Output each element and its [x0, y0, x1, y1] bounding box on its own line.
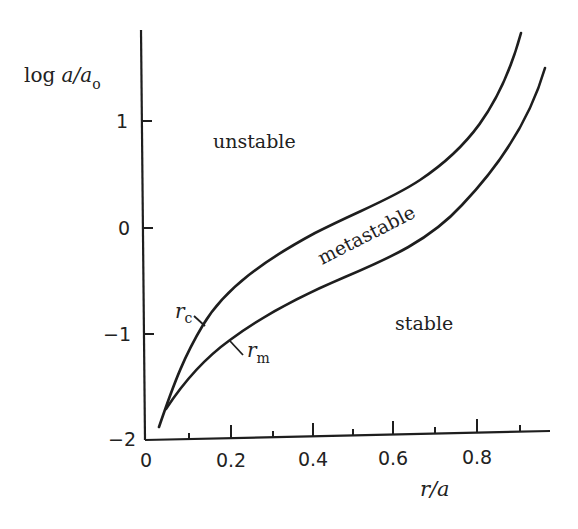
y-tick-label: 1 — [116, 110, 128, 132]
stability-chart: 1 0 −1 −2 0 0.2 0.4 0.6 0.8 log a/ao r/a… — [0, 0, 578, 529]
x-tick-label: 0.2 — [216, 449, 246, 471]
unstable-label: unstable — [213, 130, 296, 152]
rm-leader — [230, 341, 243, 355]
y-tick-labels: 1 0 −1 −2 — [103, 110, 136, 450]
x-tick-labels: 0 0.2 0.4 0.6 0.8 — [140, 446, 492, 471]
y-axis — [141, 30, 145, 440]
stable-label: stable — [395, 312, 453, 334]
y-axis-label: log a/ao — [24, 63, 101, 92]
rc-label: rc — [175, 299, 193, 326]
x-tick-label: 0.8 — [462, 446, 492, 468]
metastable-label: metastable — [314, 201, 419, 269]
rc-curve — [159, 33, 521, 427]
y-tick-label: 0 — [118, 217, 130, 239]
y-tick-label: −1 — [103, 323, 131, 345]
rc-leader — [194, 316, 205, 326]
x-tick-label: 0.6 — [378, 447, 408, 469]
y-tick-label: −2 — [108, 428, 136, 450]
x-axis-label: r/a — [420, 477, 450, 501]
x-axis — [145, 431, 550, 440]
x-tick-label: 0 — [140, 449, 152, 471]
x-tick-label: 0.4 — [298, 448, 328, 470]
rm-label: rm — [247, 338, 270, 366]
